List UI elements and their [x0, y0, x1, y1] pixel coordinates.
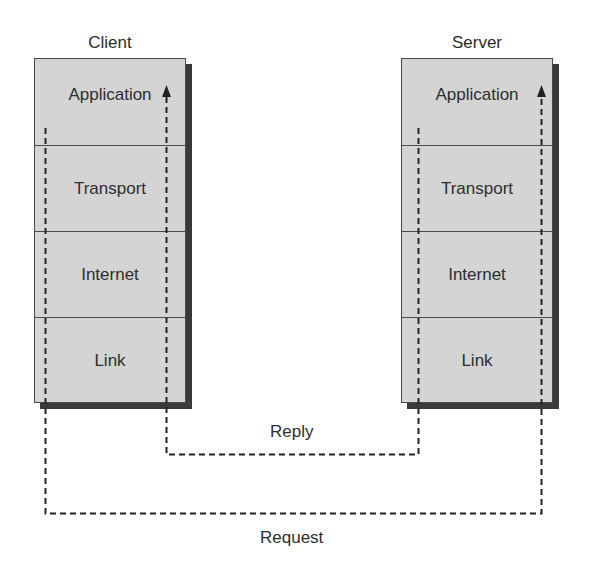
request-arrowhead-icon — [537, 85, 546, 97]
reply-arrowhead-icon — [162, 85, 171, 97]
reply-label: Reply — [270, 422, 313, 442]
flow-lines — [0, 0, 589, 570]
request-path — [46, 96, 542, 514]
request-label: Request — [260, 528, 323, 548]
reply-path — [167, 96, 419, 455]
